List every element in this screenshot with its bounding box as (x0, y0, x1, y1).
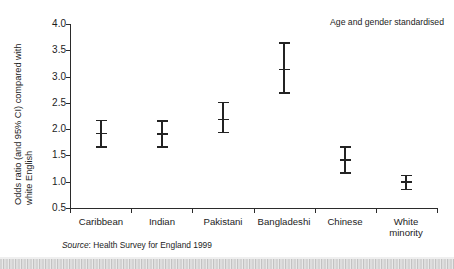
x-axis-category-label-line: Pakistani (192, 216, 253, 227)
point-estimate-marker (401, 181, 412, 183)
error-bar-line (283, 42, 285, 92)
y-axis-tick-labels: 4.03.53.02.52.01.51.00.5 (36, 0, 66, 269)
x-axis-category-label: Bangladeshi (253, 216, 314, 227)
error-bar-lower-cap (401, 189, 412, 191)
chart-annotation: Age and gender standardised (330, 17, 444, 27)
y-axis-tick-label: 3.0 (38, 72, 66, 82)
source-text: Health Survey for England 1999 (93, 240, 212, 250)
y-axis-title-line-1: Odds ratio (and 95% CI) compared with (13, 44, 24, 205)
x-axis-category-label-line: Caribbean (70, 216, 131, 227)
error-bar-lower-cap (157, 146, 168, 148)
x-axis-category-label-line: Chinese (314, 216, 375, 227)
x-axis-category-label-line: Indian (131, 216, 192, 227)
x-axis-category-label-line: minority (375, 227, 436, 238)
error-bar-upper-cap (279, 42, 290, 44)
x-axis-tick-mark (70, 208, 71, 213)
y-axis-tick-label: 3.5 (38, 45, 66, 55)
source-note: Source: Health Survey for England 1999 (62, 240, 212, 250)
error-bar-upper-cap (218, 102, 229, 104)
point-estimate-marker (340, 159, 351, 161)
y-axis-title: Odds ratio (and 95% CI) compared with wh… (0, 0, 34, 212)
point-estimate-marker (157, 133, 168, 135)
x-axis-category-label: Pakistani (192, 216, 253, 227)
y-axis-tick-mark (66, 50, 70, 51)
error-bar-lower-cap (340, 172, 351, 174)
y-axis-tick-mark (66, 182, 70, 183)
y-axis-tick-mark (66, 155, 70, 156)
y-axis-tick-label: 4.0 (38, 19, 66, 29)
y-axis-tick-label: 2.0 (38, 124, 66, 134)
point-estimate-marker (96, 133, 107, 135)
error-bar-lower-cap (96, 146, 107, 148)
source-label: Source (62, 240, 89, 250)
error-bar-upper-cap (157, 120, 168, 122)
error-bar-lower-cap (218, 132, 229, 134)
y-axis-title-line-2: white English (24, 151, 35, 205)
x-axis-category-label: Indian (131, 216, 192, 227)
plot-area: CaribbeanIndianPakistaniBangladeshiChine… (70, 24, 437, 208)
x-axis-tick-mark (192, 208, 193, 213)
error-bar-upper-cap (96, 120, 107, 122)
x-axis-category-label-line: White (375, 216, 436, 227)
x-axis-tick-mark (131, 208, 132, 213)
point-estimate-marker (279, 69, 290, 71)
y-axis-tick-label: 0.5 (38, 203, 66, 213)
scan-artifact-strip (0, 259, 454, 269)
y-axis-tick-label: 1.5 (38, 150, 66, 160)
x-axis-category-label: Whiteminority (375, 216, 436, 238)
x-axis-tick-mark (254, 208, 255, 213)
error-bar-lower-cap (279, 92, 290, 94)
x-axis-tick-mark (437, 208, 438, 213)
y-axis-tick-label: 1.0 (38, 177, 66, 187)
y-axis-tick-mark (66, 103, 70, 104)
x-axis-tick-mark (315, 208, 316, 213)
x-axis-category-label: Caribbean (70, 216, 131, 227)
x-axis-category-label-line: Bangladeshi (253, 216, 314, 227)
y-axis-line (70, 24, 71, 208)
point-estimate-marker (218, 119, 229, 121)
error-bar-upper-cap (401, 175, 412, 177)
error-bar-upper-cap (340, 146, 351, 148)
chart-figure: Odds ratio (and 95% CI) compared with wh… (0, 0, 454, 269)
y-axis-tick-mark (66, 77, 70, 78)
y-axis-tick-mark (66, 129, 70, 130)
y-axis-tick-mark (66, 24, 70, 25)
x-axis-tick-mark (376, 208, 377, 213)
y-axis-tick-label: 2.5 (38, 98, 66, 108)
error-bar-line (222, 102, 224, 132)
x-axis-category-label: Chinese (314, 216, 375, 227)
